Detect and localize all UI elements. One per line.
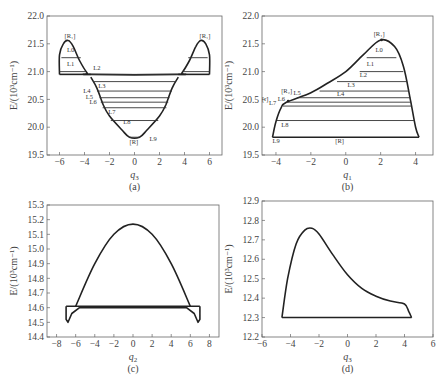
level-annotation: L0 bbox=[375, 46, 382, 53]
y-tick-label: 19.5 bbox=[242, 150, 259, 160]
panel-caption: (d) bbox=[342, 363, 354, 375]
level-annotation: [R₁] bbox=[65, 32, 76, 40]
y-tick-label: 12.7 bbox=[242, 235, 259, 245]
x-tick-label: 6 bbox=[188, 339, 193, 349]
x-tick-label: −4 bbox=[271, 157, 281, 167]
x-tick-label: −4 bbox=[90, 339, 100, 349]
y-tick-label: 14.6 bbox=[27, 303, 44, 313]
y-tick-label: 12.8 bbox=[242, 216, 259, 226]
level-annotation: L2 bbox=[360, 71, 367, 78]
y-tick-label: 14.8 bbox=[27, 274, 44, 284]
level-annotation: L7 bbox=[269, 99, 277, 106]
y-tick-label: 22.0 bbox=[242, 11, 259, 21]
y-tick-label: 15.3 bbox=[27, 200, 44, 210]
x-tick-label: −2 bbox=[314, 339, 324, 349]
level-annotation: L3 bbox=[348, 81, 355, 88]
level-annotation: L6 bbox=[90, 98, 98, 105]
chart-panel-d: −6−4−2024612.212.312.412.512.612.712.812… bbox=[223, 196, 436, 375]
y-tick-label: 20.0 bbox=[27, 122, 44, 132]
y-tick-label: 20.5 bbox=[242, 95, 259, 105]
level-annotation: L7 bbox=[108, 108, 116, 115]
level-annotation: L2 bbox=[93, 64, 100, 71]
y-tick-label: 14.9 bbox=[27, 259, 44, 269]
y-tick-label: 15.2 bbox=[27, 215, 44, 225]
potential-curve bbox=[282, 228, 412, 318]
y-tick-label: 21.0 bbox=[27, 67, 44, 77]
level-annotation: L8 bbox=[123, 118, 130, 125]
figure-canvas: −6−4−2024619.520.020.521.021.522.0E/(10³… bbox=[0, 0, 446, 386]
chart-panel-c: −8−6−4−20246814.414.514.614.714.814.915.… bbox=[8, 200, 219, 375]
panel-caption: (c) bbox=[127, 363, 138, 375]
y-axis-label: E/(10³cm⁻¹) bbox=[8, 246, 20, 295]
x-tick-label: 0 bbox=[343, 157, 348, 167]
x-tick-label: 4 bbox=[402, 339, 407, 349]
y-tick-label: 12.5 bbox=[242, 274, 259, 284]
y-tick-label: 12.6 bbox=[242, 254, 259, 264]
y-tick-label: 15.1 bbox=[27, 230, 44, 240]
x-tick-label: 2 bbox=[150, 339, 155, 349]
x-tick-label: −4 bbox=[285, 339, 295, 349]
level-annotation: L4 bbox=[337, 90, 345, 97]
level-annotation: [r] bbox=[262, 95, 269, 103]
chart-panel-b: −4−202419.520.020.521.021.522.0E/(10³cm⁻… bbox=[223, 11, 433, 193]
x-tick-label: 0 bbox=[132, 157, 137, 167]
x-tick-label: −8 bbox=[52, 339, 62, 349]
x-tick-label: −2 bbox=[104, 157, 114, 167]
y-tick-label: 20.0 bbox=[242, 122, 259, 132]
y-tick-label: 21.5 bbox=[242, 39, 259, 49]
level-annotation: [R₁] bbox=[374, 30, 385, 38]
plot-frame bbox=[262, 201, 433, 337]
level-annotation: L6 bbox=[278, 95, 286, 102]
x-tick-label: 2 bbox=[157, 157, 162, 167]
level-annotation: [R] bbox=[130, 138, 139, 146]
y-axis-label: E/(10³cm⁻¹) bbox=[223, 244, 235, 293]
x-tick-label: 6 bbox=[207, 157, 212, 167]
x-tick-label: 4 bbox=[169, 339, 174, 349]
x-tick-label: 2 bbox=[374, 339, 379, 349]
level-annotation: [R] bbox=[335, 137, 344, 145]
x-tick-label: 6 bbox=[431, 339, 436, 349]
x-tick-label: 0 bbox=[345, 339, 350, 349]
y-tick-label: 21.5 bbox=[27, 39, 44, 49]
y-tick-label: 15.0 bbox=[27, 244, 44, 254]
x-tick-label: −6 bbox=[71, 339, 81, 349]
level-annotation: L1 bbox=[67, 60, 74, 67]
y-tick-label: 19.5 bbox=[27, 150, 44, 160]
potential-curve bbox=[76, 224, 191, 306]
level-annotation: L1 bbox=[367, 60, 374, 67]
panel-caption: (b) bbox=[342, 181, 354, 193]
y-tick-label: 22.0 bbox=[27, 11, 44, 21]
level-annotation: L5 bbox=[293, 89, 300, 96]
x-tick-label: −2 bbox=[109, 339, 119, 349]
level-annotation: L0 bbox=[67, 46, 74, 53]
level-annotation: L8 bbox=[281, 121, 288, 128]
level-annotation: [R₁] bbox=[200, 32, 211, 40]
x-tick-label: 0 bbox=[131, 339, 136, 349]
level-annotation: L9 bbox=[150, 135, 157, 142]
y-tick-label: 21.0 bbox=[242, 67, 259, 77]
y-tick-label: 12.3 bbox=[242, 313, 259, 323]
level-annotation: L9 bbox=[272, 137, 279, 144]
x-tick-label: −4 bbox=[79, 157, 89, 167]
x-tick-label: −2 bbox=[306, 157, 316, 167]
y-tick-label: 12.2 bbox=[242, 332, 259, 342]
y-tick-label: 12.9 bbox=[242, 196, 259, 206]
y-tick-label: 12.4 bbox=[242, 293, 259, 303]
level-annotation: L3 bbox=[98, 82, 105, 89]
y-tick-label: 14.7 bbox=[27, 288, 44, 298]
x-tick-label: 2 bbox=[378, 157, 383, 167]
y-tick-label: 14.4 bbox=[27, 332, 44, 342]
y-tick-label: 20.5 bbox=[27, 95, 44, 105]
lower-curve bbox=[66, 306, 200, 322]
x-tick-label: 4 bbox=[182, 157, 187, 167]
y-tick-label: 14.5 bbox=[27, 318, 44, 328]
panel-caption: (a) bbox=[129, 181, 140, 193]
x-tick-label: −6 bbox=[54, 157, 64, 167]
chart-panel-a: −6−4−2024619.520.020.521.021.522.0E/(10³… bbox=[8, 11, 222, 193]
y-axis-label: E/(10³cm⁻¹) bbox=[223, 61, 235, 110]
x-tick-label: 8 bbox=[207, 339, 212, 349]
potential-curve bbox=[59, 40, 210, 74]
y-axis-label: E/(10³cm⁻¹) bbox=[8, 61, 20, 110]
x-tick-label: 4 bbox=[413, 157, 418, 167]
